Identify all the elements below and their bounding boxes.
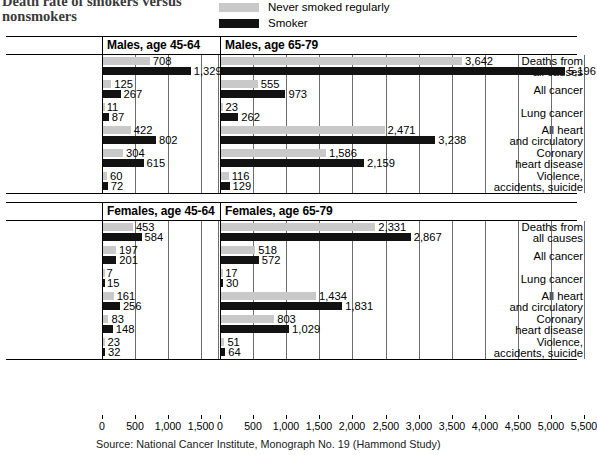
chart-title: Death rate of smokers versus nonsmokers bbox=[2, 0, 212, 24]
legend-swatch-never-smoked bbox=[219, 3, 259, 12]
bar-value-label: 422 bbox=[134, 125, 153, 136]
bar-smoker bbox=[103, 279, 105, 287]
bar-never bbox=[103, 269, 105, 277]
bar-never bbox=[103, 246, 116, 254]
category-label: Deaths fromall causes bbox=[485, 222, 583, 245]
plot-region: Deaths fromall causes4535842,3312,867All… bbox=[0, 221, 583, 359]
bar-never bbox=[221, 315, 274, 323]
bar-smoker bbox=[221, 90, 285, 98]
category-label-line: accidents, suicide bbox=[485, 348, 583, 359]
axis-tick bbox=[584, 415, 585, 419]
axis-tick-label: 500 bbox=[244, 420, 262, 432]
bar-value-label: 802 bbox=[159, 135, 178, 146]
panel-header-band: Females, age 45-64Females, age 65-79 bbox=[0, 203, 583, 220]
axis-tick bbox=[201, 415, 202, 419]
axis-tick-label: 5,000 bbox=[538, 420, 565, 432]
bar-value-label: 262 bbox=[241, 112, 260, 123]
bar-smoker bbox=[103, 67, 191, 75]
axis-tick-label: 1,000 bbox=[273, 420, 300, 432]
legend-label-smoker: Smoker bbox=[268, 18, 308, 30]
bar-value-label: 1,831 bbox=[345, 301, 373, 312]
bar-smoker bbox=[103, 302, 120, 310]
chart-row: Lung cancer118723262 bbox=[0, 101, 583, 124]
axis-tick-label: 2,500 bbox=[373, 420, 400, 432]
category-label: Violence,accidents, suicide bbox=[485, 171, 583, 194]
axis-tick bbox=[102, 415, 103, 419]
bar-smoker bbox=[103, 182, 108, 190]
bar-never bbox=[103, 338, 105, 346]
bar-value-label: 148 bbox=[116, 324, 135, 335]
bar-never bbox=[103, 80, 111, 88]
bar-smoker bbox=[221, 279, 223, 287]
axis-tick bbox=[452, 415, 453, 419]
bar-value-label: 87 bbox=[112, 112, 124, 123]
bar-smoker bbox=[103, 256, 116, 264]
category-label-line: accidents, suicide bbox=[485, 182, 583, 193]
bar-value-label: 3,238 bbox=[438, 135, 466, 146]
axis-tick-label: 1,500 bbox=[188, 420, 215, 432]
axis-tick bbox=[135, 415, 136, 419]
bar-value-label: 304 bbox=[126, 148, 145, 159]
bar-never bbox=[221, 269, 223, 277]
panel-divider bbox=[102, 37, 103, 54]
panel-title-females-45-64: Females, age 45-64 bbox=[107, 204, 215, 218]
axis-tick bbox=[551, 415, 552, 419]
bar-never bbox=[221, 149, 326, 157]
plot-region: Deaths fromall causes7081,3293,6425,196A… bbox=[0, 55, 583, 193]
chart-row: Violence,accidents, suicide6072116129 bbox=[0, 170, 583, 193]
bar-smoker bbox=[103, 325, 113, 333]
chart-row: Coronaryheart disease3046151,5862,159 bbox=[0, 147, 583, 170]
bar-value-label: 30 bbox=[226, 278, 238, 289]
category-label: Lung cancer bbox=[485, 274, 583, 285]
category-label-line: Lung cancer bbox=[485, 108, 583, 119]
chart-row: All heartand circulatory1612561,4341,831 bbox=[0, 290, 583, 313]
bar-value-label: 973 bbox=[288, 89, 307, 100]
category-label: All heartand circulatory bbox=[485, 291, 583, 314]
panel-header-band: Males, age 45-64Males, age 65-79 bbox=[0, 37, 583, 54]
chart-row: All cancer125267555973 bbox=[0, 78, 583, 101]
chart-row: All heartand circulatory4228022,4713,238 bbox=[0, 124, 583, 147]
bar-value-label: 555 bbox=[261, 79, 280, 90]
axis-tick bbox=[419, 415, 420, 419]
bar-never bbox=[221, 246, 255, 254]
bar-smoker bbox=[103, 90, 121, 98]
panel-title-females-65-79: Females, age 65-79 bbox=[225, 204, 333, 218]
bar-never bbox=[103, 223, 133, 231]
chart-row: Lung cancer7151730 bbox=[0, 267, 583, 290]
axis-tick-label: 2,000 bbox=[339, 420, 366, 432]
panel-title-males-45-64: Males, age 45-64 bbox=[107, 38, 200, 52]
bar-value-label: 2,159 bbox=[367, 158, 395, 169]
axis-tick bbox=[286, 415, 287, 419]
bar-never bbox=[221, 80, 258, 88]
axis-tick bbox=[352, 415, 353, 419]
bar-smoker bbox=[221, 182, 230, 190]
bar-smoker bbox=[103, 348, 105, 356]
bar-never bbox=[103, 103, 105, 111]
chart-row: Violence,accidents, suicide23325164 bbox=[0, 336, 583, 359]
legend-item-never-smoked: Never smoked regularly bbox=[219, 1, 389, 14]
bar-value-label: 129 bbox=[233, 181, 252, 192]
bar-smoker bbox=[103, 233, 142, 241]
axis-tick-label: 1,500 bbox=[306, 420, 333, 432]
bar-never bbox=[221, 223, 375, 231]
bar-smoker bbox=[221, 233, 411, 241]
bar-value-label: 256 bbox=[123, 301, 142, 312]
bar-value-label: 267 bbox=[124, 89, 143, 100]
chart-row: All cancer197201518572 bbox=[0, 244, 583, 267]
bar-smoker bbox=[221, 67, 565, 75]
bar-never bbox=[221, 126, 385, 134]
panel-divider bbox=[220, 37, 221, 54]
bar-value-label: 23 bbox=[226, 102, 238, 113]
axis-tick-label: 4,500 bbox=[505, 420, 532, 432]
bar-smoker bbox=[221, 302, 342, 310]
bar-never bbox=[221, 338, 224, 346]
bar-value-label: 708 bbox=[153, 56, 172, 67]
bar-smoker bbox=[221, 348, 225, 356]
bar-value-label: 2,471 bbox=[388, 125, 416, 136]
category-label: Lung cancer bbox=[485, 108, 583, 119]
source-note: Source: National Cancer Institute, Monog… bbox=[96, 438, 440, 450]
category-label: Coronaryheart disease bbox=[485, 148, 583, 171]
axis-tick bbox=[220, 415, 221, 419]
axis-tick bbox=[253, 415, 254, 419]
axis-tick bbox=[319, 415, 320, 419]
